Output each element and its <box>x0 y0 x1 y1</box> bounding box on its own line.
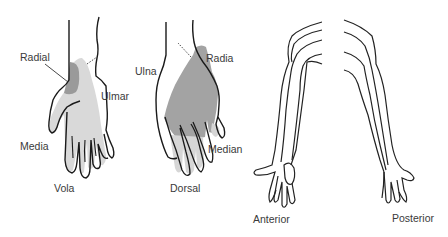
volar-hand-illustration <box>0 0 448 237</box>
label-median: Median <box>208 144 242 155</box>
caption-anterior: Anterior <box>253 214 290 225</box>
anterior-arm-illustration <box>254 22 322 207</box>
nerve-innervation-diagram: Radial Ulmar Media Vola Ulna Radia Media… <box>0 0 448 237</box>
posterior-arm-illustration <box>344 20 414 203</box>
label-media: Media <box>20 141 49 152</box>
caption-posterior: Posterior <box>392 213 434 224</box>
radial-leader-line <box>45 64 68 82</box>
label-radial-volar: Radial <box>20 52 50 63</box>
caption-vola: Vola <box>54 183 74 194</box>
label-ulmar: Ulmar <box>101 91 129 102</box>
label-radia: Radia <box>206 53 233 64</box>
caption-dorsal: Dorsal <box>170 183 200 194</box>
dorsal-wrist-dotted <box>178 43 191 57</box>
label-ulna: Ulna <box>135 66 157 77</box>
radial-region-volar <box>64 62 79 94</box>
